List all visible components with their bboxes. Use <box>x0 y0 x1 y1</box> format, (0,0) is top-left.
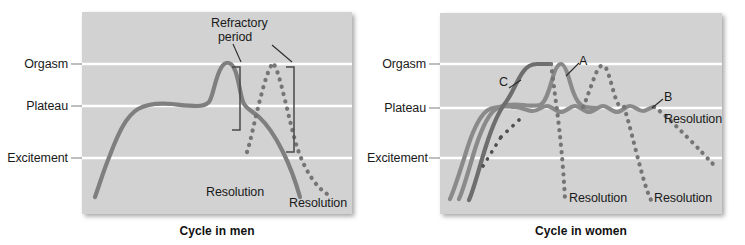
women-annotation-resolution-a: Resolution <box>664 113 745 126</box>
women-axis-label-plateau: Plateau <box>373 102 426 115</box>
women-tick-stubs <box>429 64 440 158</box>
women-annotation-curve-b: B <box>664 91 684 104</box>
women-annotation-resolution-b: Resolution <box>654 192 744 205</box>
men-annotation-resolution-solid: Resolution <box>206 186 296 199</box>
women-panel-title: Cycle in women <box>440 224 722 238</box>
men-axis-label-orgasm: Orgasm <box>0 58 68 71</box>
women-annotation-curve-c: C <box>499 76 519 89</box>
men-annotation-refractory-line2: period <box>218 31 308 44</box>
men-plot-background <box>82 12 352 214</box>
men-axis-label-excitement: Excitement <box>0 152 68 165</box>
men-panel-title: Cycle in men <box>82 224 352 238</box>
panel-cycle-in-men: Orgasm Plateau Excitement Refractory per… <box>0 0 373 245</box>
figure-root: Orgasm Plateau Excitement Refractory per… <box>0 0 745 245</box>
panel-cycle-in-women: Orgasm Plateau Excitement A B C Resoluti… <box>373 0 745 245</box>
men-annotation-resolution-dotted: Resolution <box>289 197 379 210</box>
women-axis-label-excitement: Excitement <box>367 152 426 165</box>
women-axis-label-orgasm: Orgasm <box>373 58 426 71</box>
men-annotation-refractory-line1: Refractory <box>211 17 301 30</box>
women-annotation-curve-a: A <box>579 55 599 68</box>
men-tick-stubs <box>71 64 82 158</box>
men-axis-label-plateau: Plateau <box>0 100 68 113</box>
women-annotation-resolution-c: Resolution <box>569 192 659 205</box>
